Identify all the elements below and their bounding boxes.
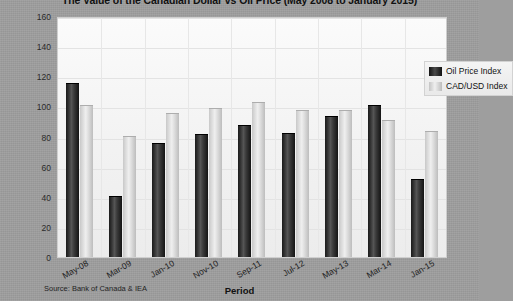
y-axis-tick-labels: 160140120100806040200: [0, 17, 55, 258]
bar-cad: [166, 113, 179, 257]
y-tick-label: 20: [42, 223, 51, 233]
y-tick-label: 80: [42, 133, 51, 143]
y-tick-label: 160: [37, 12, 51, 22]
bar-group: [360, 18, 403, 257]
bar-oil: [66, 83, 79, 257]
bar-group: [230, 18, 273, 257]
legend-swatch-icon-cad: [429, 82, 442, 91]
bar-cad: [339, 110, 352, 257]
y-tick-label: 0: [46, 253, 51, 263]
bar-oil: [368, 105, 381, 257]
bar-group: [144, 18, 187, 257]
bar-oil: [238, 125, 251, 257]
bar-oil: [411, 179, 424, 257]
bar-oil: [109, 196, 122, 257]
bar-cad: [80, 105, 93, 257]
y-tick-label: 140: [37, 42, 51, 52]
legend-swatch-icon-oil: [429, 67, 442, 76]
y-tick-label: 60: [42, 163, 51, 173]
source-note: Source: Bank of Canada & IEA: [44, 284, 147, 293]
legend-label-cad: CAD/USD Index: [446, 81, 507, 91]
bar-cad: [296, 110, 309, 257]
bar-group: [58, 18, 101, 257]
y-tick-label: 120: [37, 72, 51, 82]
bar-oil: [195, 134, 208, 257]
bar-cad: [425, 131, 438, 257]
bar-oil: [282, 133, 295, 258]
legend-item-cad-usd-index: CAD/USD Index: [429, 81, 507, 91]
bar-cad: [209, 108, 222, 257]
bar-group: [187, 18, 230, 257]
plot-area: Oil Price Index CAD/USD Index: [57, 17, 447, 258]
legend-label-oil: Oil Price Index: [446, 66, 501, 76]
bar-oil: [325, 116, 338, 257]
legend-item-oil-price-index: Oil Price Index: [429, 66, 507, 76]
bar-cad: [252, 102, 265, 257]
bar-group: [403, 18, 446, 257]
bar-group: [274, 18, 317, 257]
y-tick-label: 100: [37, 102, 51, 112]
chart-title: The Value of the Canadian Dollar vs Oil …: [0, 0, 479, 6]
bar-cad: [123, 136, 136, 258]
bar-group: [317, 18, 360, 257]
bar-cad: [382, 120, 395, 257]
bar-group: [101, 18, 144, 257]
chart-legend: Oil Price Index CAD/USD Index: [424, 61, 513, 96]
bar-oil: [152, 143, 165, 257]
y-tick-label: 40: [42, 193, 51, 203]
bar-groups: [58, 18, 446, 257]
